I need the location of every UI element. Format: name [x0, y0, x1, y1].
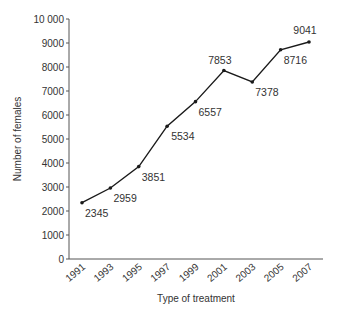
y-tick-label: 0 [58, 254, 64, 265]
data-point [279, 48, 283, 52]
x-tick-label: 2007 [290, 261, 314, 284]
y-axis-label: Number of females [12, 97, 23, 181]
x-tick-label: 1999 [177, 261, 201, 284]
data-line [82, 42, 309, 203]
data-point [137, 165, 141, 169]
data-point [109, 186, 113, 190]
y-tick-label: 3000 [42, 182, 65, 193]
y-tick-label: 7000 [42, 86, 65, 97]
data-point [222, 69, 226, 73]
data-labels: 234529593851553465577853737887169041 [85, 24, 317, 219]
x-axis: 199119931995199719992001200320052007 [63, 259, 323, 284]
data-point [165, 124, 169, 128]
y-tick-label: 9000 [42, 38, 65, 49]
x-tick-label: 1991 [63, 261, 87, 284]
data-label: 2959 [113, 192, 137, 204]
x-axis-label: Type of treatment [157, 293, 235, 304]
data-point [194, 100, 198, 104]
data-label: 9041 [293, 24, 317, 36]
data-point [250, 80, 254, 84]
data-point [80, 201, 84, 205]
data-label: 3851 [142, 171, 166, 183]
x-tick-label: 2005 [262, 261, 286, 284]
x-tick-label: 1995 [120, 261, 144, 284]
y-tick-label: 2000 [42, 206, 65, 217]
data-label: 7378 [255, 86, 279, 98]
y-tick-label: 8000 [42, 62, 65, 73]
x-tick-label: 2001 [205, 261, 229, 284]
y-tick-label: 4000 [42, 158, 65, 169]
data-label: 5534 [171, 130, 195, 142]
data-label: 7853 [208, 54, 232, 66]
line-chart: 010002000300040005000600070008000900010 … [0, 0, 337, 312]
x-tick-label: 1993 [92, 261, 116, 284]
y-tick-label: 5000 [42, 134, 65, 145]
y-tick-label: 1000 [42, 230, 65, 241]
x-tick-label: 2003 [233, 261, 257, 284]
y-tick-label: 10 000 [33, 14, 64, 25]
data-points [80, 40, 311, 204]
data-label: 8716 [284, 54, 308, 66]
x-tick-label: 1997 [148, 261, 172, 284]
y-axis: 010002000300040005000600070008000900010 … [33, 14, 69, 265]
y-tick-label: 6000 [42, 110, 65, 121]
data-point [307, 40, 311, 44]
data-label: 6557 [199, 106, 223, 118]
data-label: 2345 [85, 207, 109, 219]
